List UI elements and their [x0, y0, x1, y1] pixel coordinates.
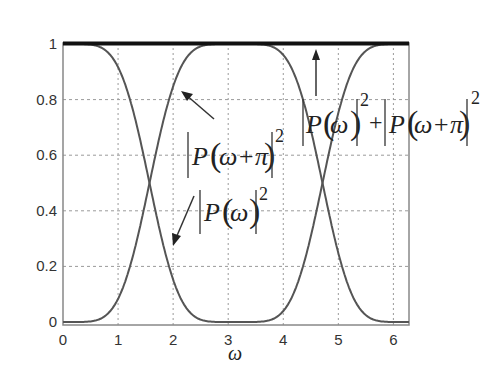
- x-tick-label: 4: [279, 331, 287, 348]
- y-tick-label: 0.8: [36, 91, 57, 108]
- y-tick-label: 0.6: [36, 146, 57, 163]
- svg-text:2: 2: [259, 184, 268, 204]
- svg-text:ω: ω: [230, 198, 248, 227]
- svg-text:2: 2: [275, 126, 284, 146]
- svg-text:2: 2: [471, 88, 480, 108]
- svg-text:2: 2: [360, 90, 369, 110]
- svg-text:ω+π: ω+π: [219, 142, 269, 171]
- svg-text:P: P: [191, 142, 208, 171]
- svg-text:P: P: [388, 110, 405, 139]
- curve-p-omega-plus-pi: [63, 44, 409, 322]
- annotation-p-omega: P ( ω ) 2: [172, 184, 268, 246]
- x-tick-label: 1: [114, 331, 122, 348]
- y-tick-label: 0.4: [36, 202, 57, 219]
- grid-lines: [63, 43, 409, 325]
- svg-text:ω: ω: [330, 110, 348, 139]
- svg-text:+: +: [369, 109, 383, 135]
- annotation-p-omega-plus-pi: P ( ω+π ) 2: [181, 91, 284, 178]
- plot-frame: [63, 43, 409, 325]
- svg-text:): ): [264, 136, 275, 174]
- x-tick-label: 2: [169, 331, 177, 348]
- y-tick-label: 1: [49, 35, 57, 52]
- svg-text:P: P: [305, 110, 322, 139]
- svg-text:): ): [459, 104, 470, 142]
- y-tick-label: 0: [49, 313, 57, 330]
- x-tick-label: 6: [389, 331, 397, 348]
- curve-p-omega: [63, 44, 409, 322]
- axis-ticks: 012345600.20.40.60.81: [36, 35, 397, 348]
- chart: 012345600.20.40.60.81 ω P ( ω+π ) 2 P ( …: [0, 0, 492, 388]
- x-tick-label: 0: [59, 331, 67, 348]
- x-axis-label: ω: [228, 342, 242, 364]
- svg-text:ω+π: ω+π: [414, 110, 464, 139]
- svg-text:P: P: [203, 198, 220, 227]
- annotation-sum: P ( ω ) 2 + P ( ω+π ) 2: [303, 49, 480, 146]
- x-tick-label: 5: [334, 331, 342, 348]
- y-tick-label: 0.2: [36, 257, 57, 274]
